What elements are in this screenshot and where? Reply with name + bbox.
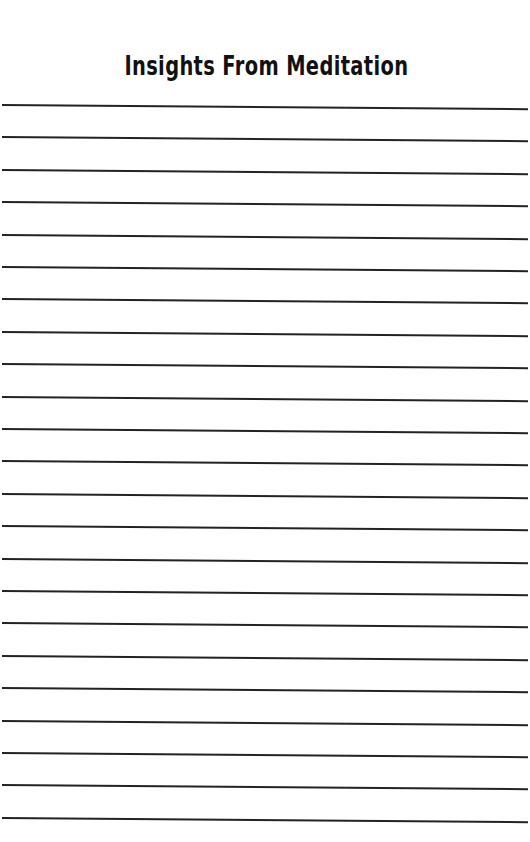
writing-line — [2, 525, 528, 531]
writing-line — [2, 331, 528, 337]
writing-line — [2, 687, 528, 693]
writing-line — [2, 784, 528, 790]
writing-line — [2, 720, 528, 726]
writing-line — [2, 266, 528, 272]
writing-line — [2, 590, 528, 596]
writing-line — [2, 169, 528, 175]
writing-line — [2, 396, 528, 402]
writing-line — [2, 655, 528, 661]
writing-line — [2, 622, 528, 628]
writing-line — [2, 493, 528, 499]
writing-line — [2, 104, 528, 110]
writing-line — [2, 298, 528, 304]
writing-line — [2, 136, 528, 142]
writing-line — [2, 558, 528, 564]
writing-line — [2, 428, 528, 434]
writing-line — [2, 817, 528, 823]
writing-line — [2, 460, 528, 466]
writing-line — [2, 752, 528, 758]
writing-line — [2, 234, 528, 240]
writing-line — [2, 201, 528, 207]
writing-line — [2, 363, 528, 369]
ruled-lines — [0, 0, 530, 842]
